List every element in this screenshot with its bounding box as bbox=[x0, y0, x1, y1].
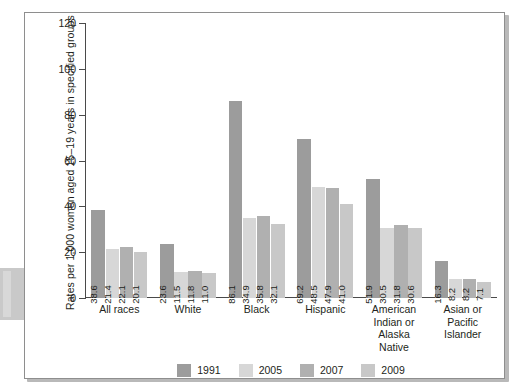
x-axis-category-label: Asian orPacificIslander bbox=[428, 303, 497, 341]
x-axis-category-label: White bbox=[154, 303, 223, 316]
bar: 86.1 bbox=[229, 101, 243, 298]
legend-item: 1991 bbox=[177, 364, 220, 377]
bar: 69.2 bbox=[297, 139, 311, 298]
x-axis-category-label-line: American bbox=[360, 303, 429, 316]
legend-label: 2005 bbox=[259, 364, 282, 376]
y-axis-tick-label: 120 bbox=[30, 18, 76, 29]
y-axis-tick-labels: 020406080100120 bbox=[24, 12, 76, 312]
bar-value-label: 23.6 bbox=[157, 285, 167, 304]
x-axis-category-label: Black bbox=[222, 303, 291, 316]
x-axis-category-label-line: Pacific bbox=[428, 316, 497, 329]
bar-value-label: 11.0 bbox=[200, 285, 210, 303]
legend-swatch bbox=[239, 364, 253, 377]
x-axis-category-label-line: Indian or bbox=[360, 316, 429, 329]
y-axis-tick-label: 60 bbox=[30, 156, 76, 167]
page-side-tab-accent bbox=[3, 271, 11, 317]
bar-value-label: 38.6 bbox=[89, 285, 99, 304]
y-axis-tick-label: 40 bbox=[30, 201, 76, 212]
bar-value-label: 31.8 bbox=[392, 285, 402, 304]
bar-value-label: 69.2 bbox=[295, 285, 305, 304]
bar-value-label: 8.2 bbox=[460, 287, 470, 300]
bar-value-label: 41.0 bbox=[337, 285, 347, 304]
bar-value-label: 20.1 bbox=[131, 285, 141, 304]
legend-label: 1991 bbox=[197, 364, 220, 376]
x-axis-category-label-line: Asian or bbox=[428, 303, 497, 316]
legend-swatch bbox=[300, 364, 314, 377]
bar-value-label: 22.1 bbox=[117, 285, 127, 304]
bar-value-label: 21.4 bbox=[103, 285, 113, 304]
bar: 30.6 bbox=[408, 228, 422, 298]
bar: 41.0 bbox=[340, 204, 354, 298]
bar-value-label: 30.6 bbox=[406, 285, 416, 304]
x-axis-category-label-line: Hispanic bbox=[291, 303, 360, 316]
legend-label: 2009 bbox=[381, 364, 404, 376]
chart-plot-area: Rates per 1,000 women aged 15–19 years i… bbox=[24, 12, 505, 379]
bar: 51.9 bbox=[366, 179, 380, 298]
y-axis-tick-label: 100 bbox=[30, 64, 76, 75]
bar-value-label: 30.5 bbox=[377, 285, 387, 304]
bar: 32.1 bbox=[271, 224, 285, 298]
bar: 20.1 bbox=[134, 252, 148, 298]
y-axis-tick-label: 0 bbox=[30, 293, 76, 304]
y-axis-tick-label: 80 bbox=[30, 110, 76, 121]
x-axis-category-label: AmericanIndian orAlaskaNative bbox=[360, 303, 429, 353]
bar: 11.0 bbox=[202, 273, 216, 298]
legend-swatch bbox=[361, 364, 375, 377]
legend-label: 2007 bbox=[320, 364, 343, 376]
x-axis-category-label: Hispanic bbox=[291, 303, 360, 316]
page-canvas: Rates per 1,000 women aged 15–19 years i… bbox=[0, 0, 522, 392]
legend-swatch bbox=[177, 364, 191, 377]
bar-value-label: 47.9 bbox=[323, 285, 333, 304]
bar-value-label: 11.5 bbox=[171, 285, 181, 303]
bar-value-label: 35.8 bbox=[254, 285, 264, 304]
x-axis-category-label-line: All races bbox=[85, 303, 154, 316]
legend-item: 2005 bbox=[239, 364, 282, 377]
x-axis-category-label-line: Islander bbox=[428, 328, 497, 341]
bar-value-label: 34.9 bbox=[240, 285, 250, 304]
x-axis-category-label-line: Native bbox=[360, 341, 429, 354]
bar-value-label: 11.8 bbox=[186, 285, 196, 303]
bar-value-label: 48.5 bbox=[309, 285, 319, 304]
chart-legend: 1991200520072009 bbox=[85, 360, 497, 380]
bar-value-label: 32.1 bbox=[268, 285, 278, 304]
bar-value-label: 16.3 bbox=[432, 285, 442, 304]
bar: 47.9 bbox=[326, 188, 340, 298]
y-axis-tick-label: 20 bbox=[30, 247, 76, 258]
bar-value-label: 86.1 bbox=[226, 285, 236, 304]
bar-series-layer: 38.621.422.120.123.611.511.811.086.134.9… bbox=[85, 23, 497, 298]
bar: 7.1 bbox=[477, 282, 491, 298]
bar: 48.5 bbox=[312, 187, 326, 298]
x-axis-category-label-line: White bbox=[154, 303, 223, 316]
legend-item: 2007 bbox=[300, 364, 343, 377]
legend-item: 2009 bbox=[361, 364, 404, 377]
bar-value-label: 51.9 bbox=[363, 285, 373, 304]
bar-value-label: 8.2 bbox=[446, 287, 456, 300]
x-axis-category-label-line: Alaska bbox=[360, 328, 429, 341]
x-axis-category-label: All races bbox=[85, 303, 154, 316]
x-axis-category-label-line: Black bbox=[222, 303, 291, 316]
bar-value-label: 7.1 bbox=[474, 287, 484, 300]
x-axis-category-labels: All racesWhiteBlackHispanicAmericanIndia… bbox=[85, 303, 497, 363]
y-axis-tick-mark bbox=[79, 298, 86, 299]
